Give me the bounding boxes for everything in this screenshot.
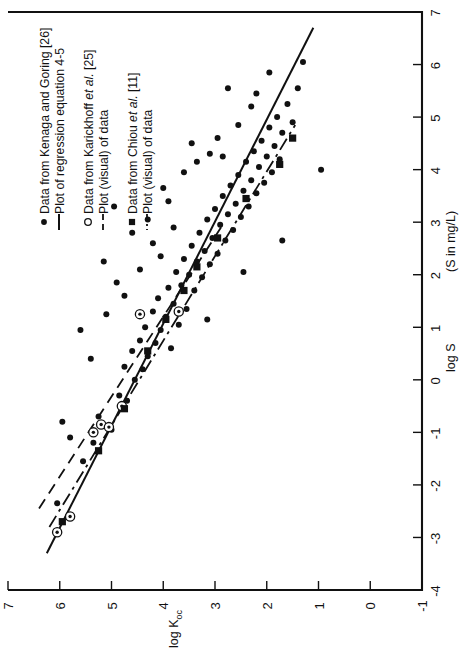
data-point-circle xyxy=(160,185,166,191)
x-axis-ticks: -101234567 xyxy=(1,581,430,612)
data-point-open-circle-center xyxy=(55,531,58,534)
x-tick-label-6: 6 xyxy=(53,602,68,609)
data-point-circle xyxy=(96,414,102,420)
data-point-circle xyxy=(176,322,182,328)
data-point-circle xyxy=(142,324,148,330)
y-axis-title-units: (S in mg/L) xyxy=(444,211,458,272)
data-point-circle xyxy=(54,500,60,506)
legend-label-marker-1: Data from Karickhoff et al. [25] xyxy=(82,50,96,214)
data-point-circle xyxy=(204,316,210,322)
data-point-circle xyxy=(202,248,208,254)
data-point-circle xyxy=(233,201,239,207)
x-tick-label-3: 3 xyxy=(208,602,223,609)
data-point-circle xyxy=(80,458,86,464)
data-point-circle xyxy=(191,287,197,293)
data-point-square xyxy=(289,135,296,142)
data-point-circle xyxy=(158,327,164,333)
data-point-circle xyxy=(215,135,221,141)
data-point-circle xyxy=(121,364,127,370)
y-tick-label-4: 4 xyxy=(428,167,443,174)
legend-marker-filled-circle xyxy=(41,219,47,225)
data-point-circle xyxy=(217,222,223,228)
x-axis-title-subscript: oc xyxy=(174,609,184,619)
data-point-circle xyxy=(204,217,210,223)
data-point-circle xyxy=(248,177,254,183)
data-point-circle xyxy=(284,101,290,107)
x-tick-label--1: -1 xyxy=(415,600,430,612)
data-point-open-circle-center xyxy=(92,431,95,434)
data-point-circle xyxy=(279,238,285,244)
data-point-square xyxy=(95,447,102,454)
data-point-circle xyxy=(225,211,231,217)
data-point-circle xyxy=(150,240,156,246)
data-point-circle xyxy=(225,85,231,91)
data-point-circle xyxy=(186,272,192,278)
data-point-circle xyxy=(272,143,278,149)
legend-label-marker-0: Data from Kenaga and Goring [26] xyxy=(38,28,52,214)
data-point-circle xyxy=(140,366,146,372)
data-point-square xyxy=(242,195,249,202)
data-point-circle xyxy=(189,140,195,146)
data-point-circle xyxy=(318,167,324,173)
data-point-open-circle-center xyxy=(138,312,141,315)
data-point-circle xyxy=(235,122,241,128)
data-point-circle xyxy=(295,85,301,91)
y-tick-label--4: -4 xyxy=(428,585,443,597)
x-axis-title-main: log K xyxy=(167,619,181,648)
data-point-circle xyxy=(290,119,296,125)
y-tick-label-2: 2 xyxy=(428,272,443,279)
x-tick-label-0: 0 xyxy=(363,602,378,609)
y-axis-ticks: -4-3-2-101234567 xyxy=(413,9,443,596)
data-point-circle xyxy=(152,340,158,346)
data-point-square xyxy=(144,347,151,354)
y-tick-label-5: 5 xyxy=(428,114,443,121)
data-point-circle xyxy=(212,206,218,212)
data-point-circle xyxy=(256,164,262,170)
y-tick-label--1: -1 xyxy=(428,428,443,440)
data-point-circle xyxy=(207,151,213,157)
data-point-circle xyxy=(240,269,246,275)
x-tick-label-1: 1 xyxy=(312,602,327,609)
legend-label-marker-2: Data from Chiou et al. [11] xyxy=(126,73,140,214)
legend-label-line-1: Plot (visual) of data xyxy=(97,109,111,214)
data-point-circle xyxy=(199,274,205,280)
y-tick-label--2: -2 xyxy=(428,480,443,492)
x-tick-label-5: 5 xyxy=(105,602,120,609)
y-tick-label-7: 7 xyxy=(428,9,443,16)
data-point-circle xyxy=(269,169,275,175)
data-point-circle xyxy=(220,154,226,160)
svg-text:log Koc: log Koc xyxy=(167,609,184,648)
legend: Data from Kenaga and Goring [26]Plot of … xyxy=(38,28,155,230)
y-tick-label-6: 6 xyxy=(428,62,443,69)
data-point-circle xyxy=(238,214,244,220)
data-point-circle xyxy=(173,269,179,275)
scatter-plot-canvas: -101234567 -4-3-2-101234567 log Koc log … xyxy=(0,0,472,662)
data-point-open-circle-center xyxy=(99,423,102,426)
data-point-circle xyxy=(137,266,143,272)
x-tick-label-2: 2 xyxy=(260,602,275,609)
data-point-circle xyxy=(266,69,272,75)
data-point-circle xyxy=(230,227,236,233)
y-tick-label--3: -3 xyxy=(428,533,443,545)
data-point-square xyxy=(180,287,187,294)
data-point-circle xyxy=(215,251,221,257)
data-point-circle xyxy=(158,253,164,259)
x-tick-label-4: 4 xyxy=(156,602,171,609)
data-point-square xyxy=(214,234,221,241)
data-point-square xyxy=(162,316,169,323)
x-tick-label-7: 7 xyxy=(1,602,16,609)
data-point-circle xyxy=(59,419,65,425)
data-point-circle xyxy=(235,172,241,178)
data-point-circle xyxy=(132,377,138,383)
data-point-circle xyxy=(67,435,73,441)
data-point-circle xyxy=(77,327,83,333)
data-point-circle xyxy=(189,243,195,249)
plot-frame xyxy=(8,12,422,590)
data-point-circle xyxy=(101,259,107,265)
data-point-circle xyxy=(243,159,249,165)
data-point-circle xyxy=(251,148,257,154)
y-tick-label-1: 1 xyxy=(428,325,443,332)
data-point-circle xyxy=(129,230,135,236)
data-point-circle xyxy=(300,59,306,65)
y-axis-title-main: log S xyxy=(444,344,458,373)
